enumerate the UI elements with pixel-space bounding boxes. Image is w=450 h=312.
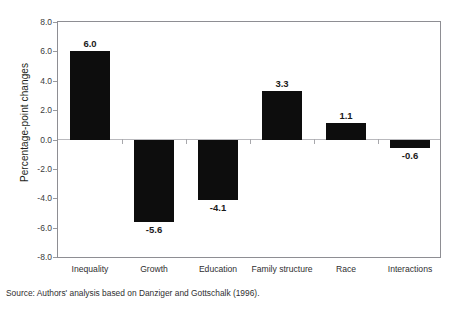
y-tick-label: -2.0	[24, 165, 52, 174]
y-tick-label: 4.0	[24, 77, 52, 86]
figure-container: Percentage-point changes 8.06.04.02.00.0…	[0, 0, 450, 312]
y-tick-label: 6.0	[24, 47, 52, 56]
zero-baseline	[58, 139, 440, 140]
bar-value-label: 6.0	[60, 39, 120, 49]
bar-value-label: -0.6	[380, 151, 440, 161]
baseline-tick	[314, 139, 315, 144]
y-tick-label: -6.0	[24, 224, 52, 233]
x-axis-label: Interactions	[365, 265, 450, 274]
bar	[262, 91, 302, 139]
y-tick-label: 8.0	[24, 18, 52, 27]
y-tick-label: -4.0	[24, 194, 52, 203]
bar	[198, 140, 238, 200]
y-tick-label: 0.0	[24, 136, 52, 145]
baseline-tick	[250, 139, 251, 144]
y-tick-label: 2.0	[24, 106, 52, 115]
bar-value-label: 3.3	[252, 79, 312, 89]
baseline-tick	[378, 139, 379, 144]
bar-value-label: -4.1	[188, 203, 248, 213]
bar-value-label: 1.1	[316, 111, 376, 121]
baseline-tick	[122, 139, 123, 144]
baseline-tick	[186, 139, 187, 144]
plot-area: 6.0-5.6-4.13.31.1-0.6	[57, 21, 441, 258]
bar	[390, 140, 430, 149]
bar	[326, 123, 366, 139]
bar-value-label: -5.6	[124, 225, 184, 235]
y-tick-label: -8.0	[24, 253, 52, 262]
bar	[134, 140, 174, 222]
source-note: Source: Authors' analysis based on Danzi…	[6, 289, 259, 297]
bar	[70, 51, 110, 139]
